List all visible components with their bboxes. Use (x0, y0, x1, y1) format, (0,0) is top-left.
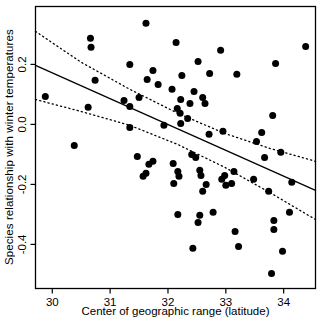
data-point (196, 212, 203, 219)
data-point (189, 245, 196, 252)
data-point (178, 72, 185, 79)
data-point (174, 211, 181, 218)
data-point (253, 138, 260, 145)
data-point (272, 60, 279, 67)
data-point (155, 81, 162, 88)
data-point (206, 131, 213, 138)
data-point (177, 110, 184, 117)
data-point (186, 100, 193, 107)
data-point (184, 115, 191, 122)
data-point (203, 181, 210, 188)
data-point (126, 103, 133, 110)
data-point (169, 86, 176, 93)
plot-area: 30313233340.20.0-0.2-0.4 (0, 0, 321, 328)
data-point (302, 43, 309, 50)
data-point (87, 35, 94, 42)
data-point (270, 226, 277, 233)
data-point (286, 209, 293, 216)
data-point (288, 179, 295, 186)
data-point (92, 77, 99, 84)
data-point (192, 154, 199, 161)
data-point (160, 122, 167, 129)
data-point (170, 180, 177, 187)
data-point (191, 88, 198, 95)
data-point (197, 172, 204, 179)
data-point (279, 248, 286, 255)
data-point (210, 209, 217, 216)
y-tick-label: -0.2 (16, 174, 28, 194)
y-tick-label: 0.0 (16, 116, 28, 132)
data-point (136, 94, 143, 101)
y-tick-label: -0.4 (16, 234, 28, 254)
data-point (269, 112, 276, 119)
data-point (199, 94, 206, 101)
data-point (149, 67, 156, 74)
x-tick-label: 33 (219, 296, 232, 308)
data-point (268, 270, 275, 277)
data-point (258, 129, 265, 136)
data-point (219, 128, 226, 135)
data-point (233, 71, 240, 78)
data-point (88, 44, 95, 51)
scatter-figure: Species relationship with winter tempera… (0, 0, 321, 328)
data-point (149, 158, 156, 165)
data-point (206, 70, 213, 77)
data-point (250, 176, 257, 183)
x-tick-label: 31 (104, 296, 117, 308)
data-point (265, 188, 272, 195)
data-point (217, 47, 224, 54)
data-point (218, 176, 225, 183)
data-point (173, 39, 180, 46)
data-point (270, 217, 277, 224)
data-point (144, 76, 151, 83)
data-point (71, 142, 78, 149)
data-point (222, 182, 229, 189)
y-axis: 0.20.0-0.2-0.4 (16, 56, 36, 254)
y-tick-label: 0.2 (16, 56, 28, 72)
data-point (170, 160, 177, 167)
data-point (232, 228, 239, 235)
data-point (121, 97, 128, 104)
data-point (195, 219, 202, 226)
data-point (277, 149, 284, 156)
data-point (202, 100, 209, 107)
data-point (177, 96, 184, 103)
data-point (42, 93, 49, 100)
data-point (126, 124, 133, 131)
x-tick-label: 34 (277, 296, 290, 308)
data-point (177, 120, 184, 127)
x-tick-label: 30 (46, 296, 59, 308)
data-point (235, 243, 242, 250)
data-point (195, 58, 202, 65)
data-point (175, 173, 182, 180)
x-axis: 3031323334 (46, 289, 291, 308)
data-point (199, 188, 206, 195)
data-point (261, 154, 268, 161)
x-tick-label: 32 (162, 296, 175, 308)
data-point (85, 104, 92, 111)
data-point (230, 168, 237, 175)
data-point (142, 20, 149, 27)
data-point (126, 61, 133, 68)
data-point (140, 173, 147, 180)
ci-upper-line (36, 31, 316, 161)
plot-border (36, 7, 316, 289)
data-point (134, 153, 141, 160)
